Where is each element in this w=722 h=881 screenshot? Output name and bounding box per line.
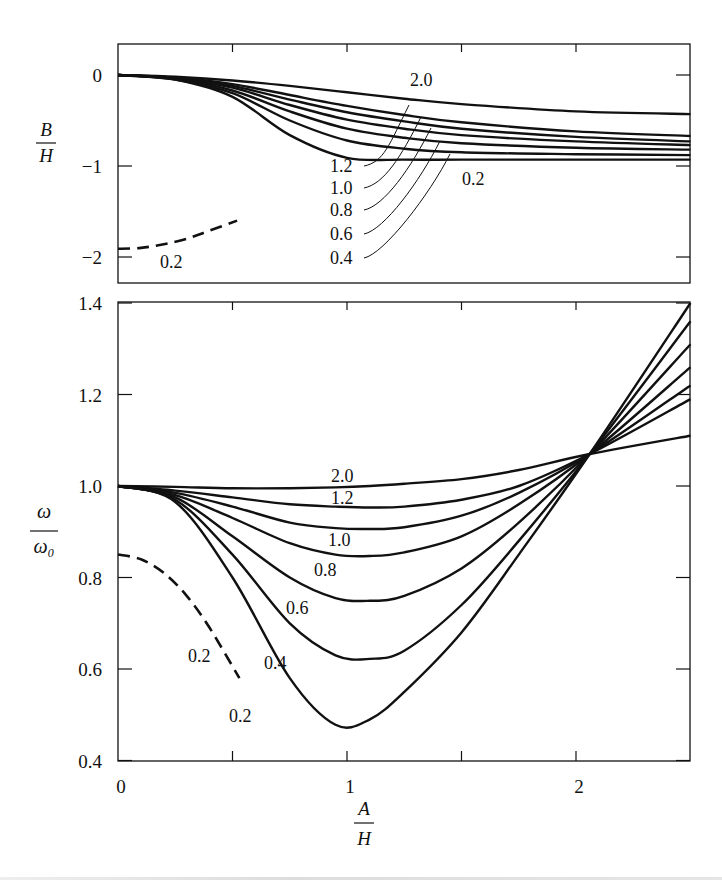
series-label-0.8: 0.8 xyxy=(330,200,353,220)
x-axis-tick-labels: 012 xyxy=(116,776,584,797)
x-tick-label: 0 xyxy=(116,776,126,797)
series-label-2.0: 2.0 xyxy=(410,70,433,90)
figure: 0−1−2 2.01.21.00.80.60.40.20.2 B H 1.41.… xyxy=(0,0,722,881)
y-tick-label: −1 xyxy=(82,156,102,177)
x-tick-label: 2 xyxy=(574,776,584,797)
dashed-series-label: 0.2 xyxy=(160,252,183,272)
xlabel-numerator: A xyxy=(356,798,370,819)
series-label-0.6: 0.6 xyxy=(286,598,309,618)
y-tick-label: 0.4 xyxy=(78,751,102,772)
y-tick-label: 0.6 xyxy=(78,659,102,680)
y-tick-label: 0.8 xyxy=(78,568,102,589)
series-label-0.2: 0.2 xyxy=(229,706,252,726)
dashed-series-label: 0.2 xyxy=(188,646,211,666)
y-tick-label: 0 xyxy=(93,65,103,86)
series-label-1.0: 1.0 xyxy=(328,530,351,550)
bottom-ylabel-numerator: ω xyxy=(37,500,51,522)
y-tick-label: 1.0 xyxy=(78,476,102,497)
curve-0.2-dashed xyxy=(118,555,239,679)
series-label-1.2: 1.2 xyxy=(331,488,354,508)
series-label-0.6: 0.6 xyxy=(330,224,353,244)
y-tick-label: 1.2 xyxy=(78,385,102,406)
series-label-0.4: 0.4 xyxy=(330,248,353,268)
top-panel: 0−1−2 2.01.21.00.80.60.40.20.2 B H xyxy=(36,44,691,283)
x-tick-label: 1 xyxy=(345,776,355,797)
leader-line xyxy=(364,141,440,234)
series-label-0.8: 0.8 xyxy=(314,560,337,580)
bottom-ylabel-denominator: ω₀ xyxy=(33,535,54,557)
xlabel-denominator: H xyxy=(356,828,372,849)
bottom-panel: 1.41.21.00.80.60.4 2.01.21.00.80.60.40.2… xyxy=(30,293,691,849)
y-tick-label: −2 xyxy=(82,247,102,268)
curve-0.2-dashed xyxy=(118,221,237,249)
figure-caption-truncated xyxy=(0,866,722,881)
top-y-axis-label: B H xyxy=(36,119,56,166)
series-label-0.2: 0.2 xyxy=(462,169,485,189)
curve-0.6 xyxy=(118,344,691,601)
curve-0.4 xyxy=(118,321,691,659)
series-label-2.0: 2.0 xyxy=(331,466,354,486)
series-label-1.0: 1.0 xyxy=(330,178,353,198)
top-ylabel-denominator: H xyxy=(38,145,54,166)
series-label-0.4: 0.4 xyxy=(264,653,287,673)
top-ylabel-numerator: B xyxy=(40,119,52,140)
x-axis-label: A H xyxy=(354,798,374,849)
curve-1.2 xyxy=(118,399,691,507)
chart-canvas: 0−1−2 2.01.21.00.80.60.40.20.2 B H 1.41.… xyxy=(0,0,722,881)
bottom-y-axis-label: ω ω₀ xyxy=(30,500,58,557)
bottom-axis-ticks: 1.41.21.00.80.60.4 xyxy=(78,293,690,772)
y-tick-label: 1.4 xyxy=(78,293,102,314)
series-label-1.2: 1.2 xyxy=(330,156,353,176)
